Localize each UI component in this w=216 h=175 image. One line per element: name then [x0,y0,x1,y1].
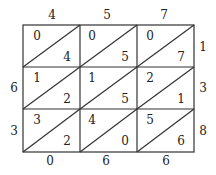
bottom-digit: 6 [99,155,113,167]
cell-tens: 5 [143,114,157,126]
lattice-grid [0,0,216,175]
cell-ones: 0 [118,135,132,147]
cell-ones: 6 [174,135,188,147]
cell-ones: 5 [118,93,132,105]
cell-tens: 4 [85,114,99,126]
top-digit: 5 [100,9,114,21]
cell-ones: 4 [60,51,74,63]
right-digit: 8 [196,125,210,137]
right-digit: 1 [196,41,210,53]
right-digit: 3 [196,82,210,94]
cell-tens: 0 [85,30,99,42]
cell-ones: 2 [60,135,74,147]
cell-tens: 0 [143,30,157,42]
cell-ones: 2 [60,93,74,105]
cell-ones: 1 [174,93,188,105]
cell-tens: 1 [85,72,99,84]
left-digit: 3 [7,125,21,137]
cell-tens: 2 [143,72,157,84]
top-digit: 4 [45,9,59,21]
cell-tens: 0 [30,30,44,42]
top-digit: 7 [157,9,171,21]
cell-ones: 5 [118,51,132,63]
cell-ones: 7 [174,51,188,63]
bottom-digit: 6 [159,155,173,167]
left-digit: 6 [7,82,21,94]
cell-tens: 1 [30,72,44,84]
bottom-digit: 0 [43,155,57,167]
cell-tens: 3 [30,114,44,126]
